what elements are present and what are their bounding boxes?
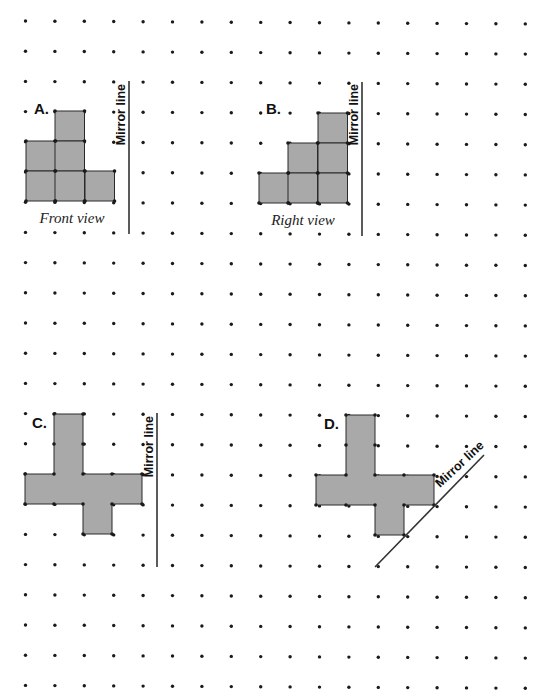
grid-dot — [112, 412, 115, 415]
grid-dot — [465, 294, 468, 297]
grid-dot — [347, 686, 350, 689]
shape-vertex-dot — [140, 502, 144, 506]
grid-dot — [494, 535, 497, 538]
grid-dot — [465, 82, 468, 85]
grid-dot — [377, 323, 380, 326]
grid-dot — [435, 354, 438, 357]
grid-dot — [465, 565, 468, 568]
grid-dot — [24, 412, 27, 415]
grid-dot — [435, 52, 438, 55]
grid-dot — [53, 291, 56, 294]
grid-dot — [200, 20, 203, 23]
grid-dot — [53, 50, 56, 53]
grid-dot — [171, 654, 174, 657]
shape-cell — [26, 141, 56, 171]
grid-dot — [524, 173, 527, 176]
grid-dot — [318, 625, 321, 628]
shape-vertex-dot — [286, 141, 290, 145]
grid-dot — [406, 233, 409, 236]
grid-dot — [524, 264, 527, 267]
shape-vertex-dot — [83, 199, 87, 203]
grid-dot — [524, 626, 527, 629]
grid-dot — [288, 534, 291, 537]
grid-dot — [524, 596, 527, 599]
grid-dot — [112, 322, 115, 325]
grid-dot — [377, 172, 380, 175]
grid-dot — [524, 505, 527, 508]
shape-vertex-dot — [373, 473, 377, 477]
grid-dot — [230, 21, 233, 24]
grid-dot — [200, 202, 203, 205]
grid-dot — [53, 563, 56, 566]
grid-dot — [141, 50, 144, 53]
grid-dot — [494, 143, 497, 146]
shape-vertex-dot — [316, 111, 320, 115]
grid-dot — [435, 203, 438, 206]
grid-dot — [524, 203, 527, 206]
grid-dot — [200, 81, 203, 84]
grid-dot — [200, 443, 203, 446]
grid-dot — [288, 323, 291, 326]
grid-dot — [406, 173, 409, 176]
grid-dot — [494, 384, 497, 387]
grid-dot — [406, 22, 409, 25]
grid-dot — [259, 353, 262, 356]
shape-vertex-dot — [257, 171, 261, 175]
grid-dot — [406, 565, 409, 568]
grid-dot — [171, 322, 174, 325]
grid-dot — [465, 656, 468, 659]
grid-dot — [288, 353, 291, 356]
grid-dot — [318, 21, 321, 24]
grid-dot — [318, 685, 321, 688]
panel-b-caption: Right view — [270, 212, 335, 228]
grid-dot — [24, 352, 27, 355]
shape-vertex-dot — [344, 413, 348, 417]
shape-vertex-dot — [316, 141, 320, 145]
shape-vertex-dot — [24, 199, 28, 203]
panel-d-label: D. — [324, 415, 339, 432]
shape-vertex-dot — [83, 109, 87, 113]
grid-dot — [230, 534, 233, 537]
grid-dot — [24, 563, 27, 566]
grid-dot — [465, 535, 468, 538]
grid-dot — [259, 504, 262, 507]
grid-dot — [377, 203, 380, 206]
grid-dot — [494, 596, 497, 599]
grid-dot — [141, 231, 144, 234]
grid-dot — [494, 445, 497, 448]
grid-dot — [406, 142, 409, 145]
grid-dot — [53, 382, 56, 385]
grid-dot — [347, 233, 350, 236]
grid-dot — [318, 565, 321, 568]
grid-dot — [112, 261, 115, 264]
grid-dot — [53, 261, 56, 264]
grid-dot — [259, 81, 262, 84]
grid-dot — [435, 626, 438, 629]
grid-dot — [494, 415, 497, 418]
grid-dot — [494, 626, 497, 629]
grid-dot — [435, 565, 438, 568]
dot-grid-worksheet: Mirror line A. Front view Mirror line B.… — [0, 0, 557, 695]
shape-vertex-dot — [344, 473, 348, 477]
shape-cell — [318, 113, 348, 143]
grid-dot — [524, 143, 527, 146]
grid-dot — [171, 383, 174, 386]
grid-dot — [112, 80, 115, 83]
shape-vertex-dot — [24, 139, 28, 143]
grid-dot — [141, 533, 144, 536]
grid-dot — [259, 262, 262, 265]
shape-vertex-dot — [344, 503, 348, 507]
grid-dot — [259, 534, 262, 537]
grid-dot — [347, 353, 350, 356]
grid-dot — [83, 684, 86, 687]
grid-dot — [465, 233, 468, 236]
grid-dot — [377, 656, 380, 659]
grid-dot — [288, 293, 291, 296]
grid-dot — [406, 324, 409, 327]
grid-dot — [24, 50, 27, 53]
grid-dot — [141, 20, 144, 23]
grid-dot — [494, 113, 497, 116]
shape-vertex-dot — [113, 199, 117, 203]
grid-dot — [24, 623, 27, 626]
grid-dot — [230, 413, 233, 416]
